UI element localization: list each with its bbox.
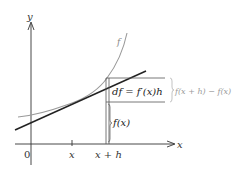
x-axis bbox=[15, 141, 175, 147]
increment-brace-icon bbox=[170, 78, 174, 102]
y-axis-label: y bbox=[26, 11, 33, 22]
x-tick-label: x bbox=[69, 149, 75, 160]
differential-label: df = f′(x)h bbox=[112, 86, 163, 97]
xh-tick-label: x + h bbox=[95, 149, 122, 160]
increment-label: f(x + h) − f(x) bbox=[174, 87, 231, 96]
differential-diagram: y x 0 x x + h f df = f′(x)h f(x + h) − f… bbox=[0, 0, 245, 172]
fx-label: f(x) bbox=[112, 117, 130, 128]
origin-label: 0 bbox=[24, 149, 30, 160]
x-axis-label: x bbox=[177, 139, 183, 150]
curve-f-label: f bbox=[116, 37, 122, 47]
